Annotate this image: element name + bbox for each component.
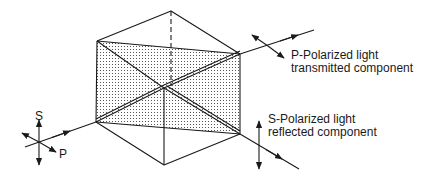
p-polarization-arrow-2-icon	[268, 46, 284, 58]
p-axis-label: P	[59, 148, 67, 161]
reflected-arrow-icon	[266, 150, 282, 160]
reflected-label-line2: reflected component	[268, 126, 377, 139]
transmitted-label-line2: transmitted component	[291, 62, 413, 75]
p-polarization-arrow-icon	[252, 35, 268, 46]
p-axis-arrow-back-icon	[22, 133, 39, 142]
incident-arrow-icon	[52, 131, 70, 138]
p-axis-arrow-icon	[39, 142, 56, 152]
transmitted-arrow-icon	[280, 35, 298, 41]
s-axis-label: S	[35, 110, 43, 123]
